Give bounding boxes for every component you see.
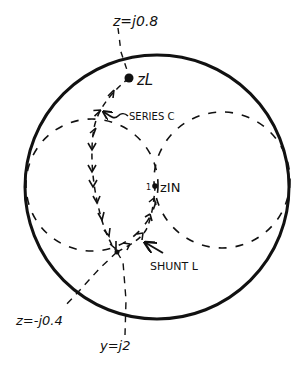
z-top-leader <box>118 28 129 76</box>
center-mark: 1 <box>146 183 151 192</box>
y-bottom-leader <box>117 252 126 335</box>
label-z-in: zIN <box>160 180 180 195</box>
series-c-arc <box>92 78 129 252</box>
z-bottom-leader <box>64 252 117 307</box>
label-y-bottom: y=j2 <box>99 338 130 353</box>
series-c-pointer <box>104 112 128 118</box>
smith-chart-diagram: 1 z=j0.8 zL SERIES C zIN SHUNT L z=-j0.4… <box>0 0 291 386</box>
shunt-l-arrows <box>123 198 156 250</box>
label-z-load: zL <box>136 71 153 89</box>
z-in-point <box>152 183 158 189</box>
shunt-l-pointer <box>146 243 163 253</box>
label-z-top: z=j0.8 <box>112 13 158 29</box>
label-series-c: SERIES C <box>129 111 174 122</box>
label-shunt-l: SHUNT L <box>150 260 199 273</box>
z-load-point <box>125 74 134 83</box>
shunt-l-arc <box>117 188 155 252</box>
label-z-bottom: z=-j0.4 <box>15 313 63 328</box>
